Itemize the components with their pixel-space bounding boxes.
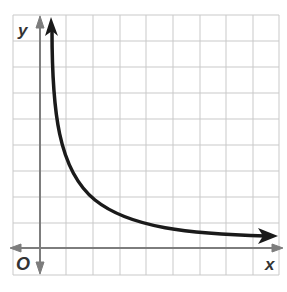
chart: y x O <box>0 0 287 292</box>
origin-label: O <box>16 254 30 274</box>
x-axis-label: x <box>264 255 276 274</box>
y-axis-label: y <box>17 21 29 40</box>
curve <box>45 17 278 244</box>
